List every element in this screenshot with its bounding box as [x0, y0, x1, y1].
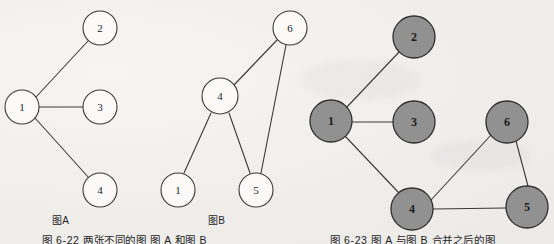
edge-b6-b5 — [261, 45, 286, 173]
node-m3-label: 3 — [411, 115, 417, 129]
node-b1[interactable]: 1 — [161, 173, 195, 207]
node-a1-label: 1 — [19, 101, 25, 113]
node-m1[interactable]: 1 — [310, 100, 352, 142]
node-m6[interactable]: 6 — [486, 101, 528, 143]
graph-b-nodes: 4 6 1 5 — [161, 11, 307, 207]
graph-a-edges — [35, 41, 89, 178]
edge-m6-m5 — [516, 141, 528, 186]
edge-m4-m6 — [431, 135, 491, 200]
edge-m4-m5 — [433, 208, 506, 209]
node-m4-label: 4 — [409, 202, 415, 216]
figure-canvas: 1 2 3 4 4 — [0, 0, 554, 244]
edge-m1-m4 — [345, 136, 399, 193]
node-m2[interactable]: 2 — [393, 16, 435, 58]
edge-b4-b6 — [234, 40, 277, 85]
edge-m1-m2 — [346, 51, 400, 108]
graph-merged: 1 2 3 4 5 6 — [310, 16, 548, 230]
node-b4[interactable]: 4 — [202, 78, 238, 114]
edge-a1-a4 — [35, 118, 89, 178]
node-m4[interactable]: 4 — [391, 188, 433, 230]
node-a3-label: 3 — [97, 101, 103, 113]
graph-a-caption: 图A — [52, 212, 69, 227]
node-a2-label: 2 — [97, 22, 103, 34]
node-b5-label: 5 — [253, 184, 259, 196]
graph-merged-nodes: 1 2 3 4 5 6 — [310, 16, 548, 230]
graph-b-caption: 图B — [208, 212, 225, 227]
node-m5-label: 5 — [524, 200, 530, 214]
graph-a-nodes: 1 2 3 4 — [5, 11, 117, 207]
figure-caption-left: 图 6-22 两张不同的图 图 A 和图 B — [42, 232, 257, 244]
node-m2-label: 2 — [411, 30, 417, 44]
edge-a1-a2 — [36, 41, 88, 97]
node-m1-label: 1 — [328, 114, 334, 128]
node-b1-label: 1 — [175, 184, 181, 196]
node-b6-label: 6 — [287, 22, 293, 34]
node-m3[interactable]: 3 — [393, 101, 435, 143]
edge-b4-b5 — [229, 113, 250, 173]
node-a1[interactable]: 1 — [5, 90, 39, 124]
graph-a: 1 2 3 4 — [5, 11, 117, 207]
figure-caption-right: 图 6-23 图 A 与图 B 合并之后的图 — [330, 232, 530, 244]
node-m6-label: 6 — [504, 115, 510, 129]
graph-b: 4 6 1 5 — [161, 11, 307, 207]
node-b4-label: 4 — [217, 90, 223, 102]
node-a2[interactable]: 2 — [83, 11, 117, 45]
node-a4[interactable]: 4 — [83, 173, 117, 207]
node-b5[interactable]: 5 — [239, 173, 273, 207]
node-a4-label: 4 — [97, 184, 103, 196]
edge-b4-b1 — [184, 113, 211, 173]
node-a3[interactable]: 3 — [83, 90, 117, 124]
node-b6[interactable]: 6 — [273, 11, 307, 45]
node-m5[interactable]: 5 — [506, 186, 548, 228]
